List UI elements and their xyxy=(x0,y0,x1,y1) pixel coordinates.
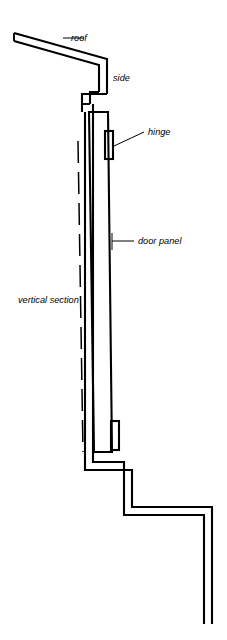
hinge-leader-line xyxy=(114,132,144,146)
roof-part xyxy=(14,33,107,94)
drawing-canvas: roof side hinge door panel vertical sect… xyxy=(0,0,227,640)
roof-inner-line xyxy=(14,41,99,92)
label-hinge: hinge xyxy=(148,127,170,137)
label-roof: roof xyxy=(71,33,88,43)
sill-outer-line xyxy=(85,112,212,624)
vertical-section-drawing: roof side hinge door panel vertical sect… xyxy=(0,0,227,640)
label-vertical-section: vertical section xyxy=(18,295,79,305)
label-door-panel: door panel xyxy=(138,236,182,246)
side-outer-line xyxy=(82,94,107,112)
label-side: side xyxy=(113,73,130,83)
sill-step-part xyxy=(85,104,212,624)
side-part xyxy=(82,92,107,112)
leader-lines xyxy=(63,38,144,250)
